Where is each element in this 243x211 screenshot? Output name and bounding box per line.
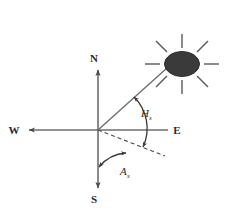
label-azimuth-symbol: A (119, 165, 127, 177)
sun-icon (145, 34, 219, 94)
sun-ray-se (197, 76, 208, 87)
diagram-canvas: N S W E H s A s (0, 0, 243, 211)
sun-disc (165, 52, 200, 77)
label-east: E (173, 124, 180, 136)
altitude-arc (134, 97, 147, 147)
sun-ray-nw (156, 41, 167, 52)
solar-position-diagram: N S W E H s A s (0, 0, 243, 211)
sun-ray-sw (156, 76, 167, 87)
sun-ray-ne (197, 41, 208, 52)
label-south: S (91, 193, 97, 205)
label-north: N (90, 52, 98, 64)
label-azimuth: A s (119, 165, 130, 180)
ground-projection-line (98, 130, 165, 156)
sun-vectors (98, 68, 167, 156)
label-altitude-subscript: s (149, 114, 152, 122)
label-azimuth-subscript: s (127, 172, 130, 180)
sun-ray-line (98, 68, 167, 130)
label-west: W (9, 124, 20, 136)
